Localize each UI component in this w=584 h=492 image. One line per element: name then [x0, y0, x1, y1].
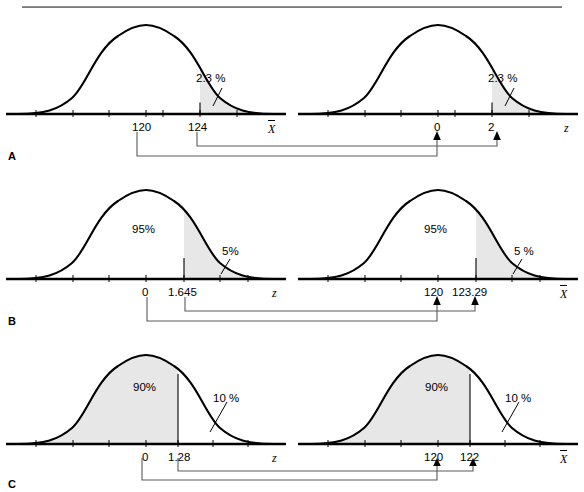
connector-a-mean: [137, 132, 437, 156]
body-percent-c-right: 90%: [425, 381, 448, 393]
connector-b-cut: [185, 297, 475, 311]
arrow-c-cut: [469, 458, 477, 466]
arrow-b-mean: [433, 296, 441, 305]
tail-percent-a-left: 2.3 %: [196, 72, 225, 84]
curve-a-right: [292, 10, 584, 130]
row-c: 90% 10 % 0 1.28 z: [0, 340, 584, 460]
curve-b-right: [292, 175, 584, 295]
shaded-tail-a-right: [310, 25, 566, 114]
shaded-tail-a-left: [18, 25, 274, 114]
curve-c-left: [0, 340, 292, 460]
body-percent-b-left: 95%: [132, 223, 155, 235]
arrow-a-mean: [433, 131, 441, 140]
body-percent-b-right: 95%: [424, 223, 447, 235]
top-rule: [22, 6, 562, 8]
row-b: 95% 5% 0 1.645 z: [0, 175, 584, 295]
tail-percent-a-right: 2.3 %: [488, 72, 517, 84]
connectors-row-a: [0, 130, 584, 168]
connectors-row-c: [0, 458, 584, 488]
connector-c-cut: [178, 458, 473, 471]
connectors-row-b: [0, 295, 584, 333]
body-percent-c-left: 90%: [133, 381, 156, 393]
connector-a-cut: [197, 132, 497, 146]
curve-c-right: [292, 340, 584, 460]
arrow-b-cut: [471, 296, 479, 305]
curve-b-left: [0, 175, 292, 295]
curve-a-left: [0, 10, 292, 130]
arrow-c-mean: [433, 458, 441, 466]
arrow-a-cut: [493, 131, 501, 140]
row-a: 2.3 % 120 124 X: [0, 10, 584, 130]
connector-c-mean: [142, 458, 437, 480]
tail-percent-c-left: 10 %: [213, 392, 239, 404]
connector-b-mean: [147, 297, 437, 321]
normal-curve-a-left: [18, 25, 274, 114]
tail-percent-b-right: 5 %: [514, 245, 534, 257]
tail-percent-b-left: 5%: [222, 245, 239, 257]
tail-percent-c-right: 10 %: [505, 392, 531, 404]
normal-curve-a-right: [310, 25, 566, 114]
